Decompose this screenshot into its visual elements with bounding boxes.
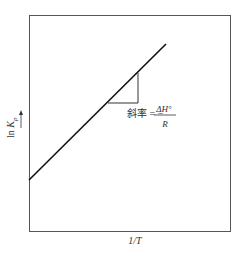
slope-denominator: R [161, 119, 168, 129]
svg-text:ln Kp: ln Kp [5, 117, 19, 138]
x-axis-label: 1/T [128, 235, 143, 246]
plot-frame [30, 16, 231, 232]
slope-triangle [108, 73, 138, 103]
slope-numerator: ΔH° [155, 104, 172, 114]
y-axis-label: ln Kp [5, 117, 19, 138]
chart-canvas: 斜率 = − ΔH° R 1/T ln Kp [0, 0, 242, 258]
arrow-head-icon [19, 110, 23, 115]
